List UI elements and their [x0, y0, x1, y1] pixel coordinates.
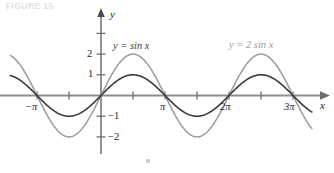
y-tick-label-neg-1: −1: [108, 110, 119, 121]
curve-label-sin-x: y = sin x: [113, 40, 150, 51]
figure-container: FIGURE 15: [0, 0, 334, 173]
y-tick-label-1: 1: [88, 68, 93, 79]
y-axis-arrowhead: [97, 8, 105, 17]
y-axis-label: y: [110, 8, 115, 20]
x-tick-label-2pi: 2π: [220, 101, 231, 112]
scan-artifact-smudge: [146, 159, 150, 163]
x-tick-label-pi: π: [160, 101, 165, 112]
y-tick-label-2: 2: [87, 48, 92, 59]
curve-label-2-sin-x: y = 2 sin x: [229, 39, 273, 50]
x-tick-label-3pi: 3π: [284, 101, 295, 112]
x-axis-label: x: [320, 99, 325, 111]
sine-graph-plot: [0, 0, 334, 173]
y-tick-label-neg-2: −2: [108, 131, 119, 142]
x-tick-label-neg-pi: −π: [25, 101, 37, 112]
